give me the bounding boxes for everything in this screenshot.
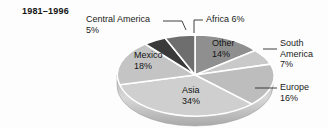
- label-africa-text: Africa 6%: [206, 14, 245, 25]
- label-mexico: Mexico 18%: [134, 50, 163, 71]
- label-central-america-pct: 5%: [86, 25, 150, 36]
- label-other-name: Other: [212, 38, 235, 49]
- label-europe-pct: 16%: [280, 93, 309, 104]
- pie-chart-graphic: [0, 0, 328, 128]
- label-mexico-pct: 18%: [134, 61, 163, 72]
- label-africa: Africa 6%: [206, 14, 245, 25]
- leader-line-central-america: [163, 21, 186, 30]
- label-south-america-line1: South: [280, 38, 313, 49]
- label-asia: Asia 34%: [182, 85, 200, 106]
- label-other: Other 14%: [212, 38, 235, 59]
- leader-line-africa: [194, 20, 203, 33]
- label-mexico-name: Mexico: [134, 50, 163, 61]
- label-central-america-name: Central America: [86, 14, 150, 25]
- label-asia-pct: 34%: [182, 96, 200, 107]
- label-south-america: South America 7%: [280, 38, 313, 70]
- label-south-america-line2: America: [280, 49, 313, 60]
- label-europe: Europe 16%: [280, 82, 309, 103]
- label-asia-name: Asia: [182, 85, 200, 96]
- label-central-america: Central America 5%: [86, 14, 150, 35]
- pie-chart-figure: 1981–1996: [0, 0, 328, 128]
- label-other-pct: 14%: [212, 49, 235, 60]
- label-south-america-pct: 7%: [280, 59, 313, 70]
- label-europe-name: Europe: [280, 82, 309, 93]
